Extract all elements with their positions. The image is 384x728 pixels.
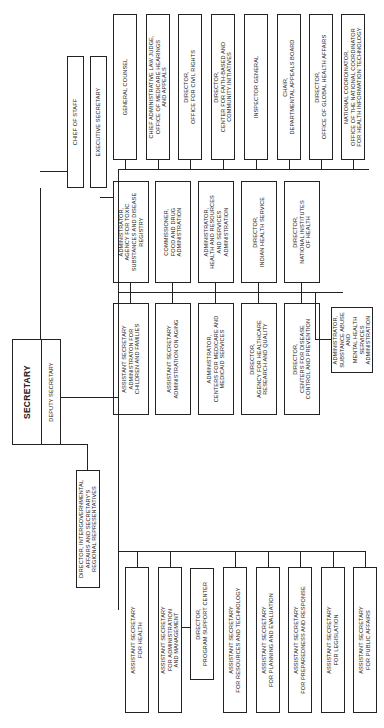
connector: [170, 552, 171, 567]
connector: [118, 169, 354, 170]
assistant-secretary-box: ASSISTANT SECRETARY FOR ADMINISTRATION A…: [158, 567, 182, 713]
connector: [235, 552, 236, 567]
operating-division-box-label: ASSISTANT SECRETARY ADMINISTRATION ON AG…: [166, 320, 179, 399]
connector: [118, 292, 343, 293]
operating-division-box-label: COMMISSIONER, FOOD AND DRUG ADMINISTRATI…: [163, 208, 183, 257]
assistant-secretary-box: ASSISTANT SECRETARY FOR RESOURCES AND TE…: [223, 567, 247, 713]
operating-division-box-label: ADMINISTRATOR, AGENCY FOR TOXIC SUBSTANC…: [118, 193, 145, 272]
executive-secretary-label: EXECUTIVE SECRETARY: [95, 88, 102, 157]
operating-division-box: ADMINISTRATOR, HEALTH AND RESOURCES AND …: [198, 181, 234, 283]
connector: [300, 552, 301, 567]
staff-office-box: INSPECTOR GENERAL: [244, 14, 268, 160]
connector: [60, 397, 118, 398]
connector: [268, 552, 269, 567]
staff-office-box: CHAIR, DEPARTMENTAL APPEALS BOARD: [277, 14, 301, 160]
operating-division-box-label: DIRECTOR, AGENCY FOR HEALTHCARE RESEARCH…: [249, 320, 269, 398]
connector: [40, 171, 67, 172]
connector: [181, 627, 190, 628]
samhsa-box-label: ADMINISTRATOR, SUBSTANCE ABUSE AND MENTA…: [332, 311, 372, 369]
operating-division-box-label: ADMINISTRATOR, HEALTH AND RESOURCES AND …: [203, 195, 230, 269]
staff-office-box-label: DIRECTOR, CENTER FOR FAITH-BASED AND COM…: [213, 42, 233, 132]
assistant-secretary-box-label: ASSISTANT SECRETARY FOR ADMINISTRATION A…: [160, 606, 180, 674]
operating-division-box: DIRECTOR, NATIONAL INSTITUTES OF HEALTH: [284, 181, 320, 283]
staff-office-box-label: DIRECTOR, OFFICE FOR CIVIL RIGHTS: [183, 50, 196, 124]
assistant-secretary-box-label: ASSISTANT SECRETARY FOR PLANNING AND EVA…: [261, 593, 274, 687]
program-support-center-box: DIRECTOR, PROGRAM SUPPORT CENTER: [190, 568, 214, 680]
staff-office-box: DIRECTOR, CENTER FOR FAITH-BASED AND COM…: [211, 14, 235, 160]
connector: [172, 293, 173, 303]
operating-division-box-label: DIRECTOR, NATIONAL INSTITUTES OF HEALTH: [292, 200, 312, 263]
chief-of-staff-box: CHIEF OF STAFF: [67, 56, 84, 188]
staff-office-box-label: GENERAL COUNSEL: [122, 59, 129, 116]
assistant-secretary-box: ASSISTANT SECRETARY FOR PREPAREDNESS AND…: [288, 567, 312, 713]
connector: [215, 293, 216, 303]
deputy-secretary-label: DEPUTY SECRETARY: [48, 362, 55, 421]
secretary-box: SECRETARY: [12, 339, 42, 445]
staff-office-box: DIRECTOR, OFFICE FOR CIVIL RIGHTS: [178, 14, 202, 160]
staff-office-box: NATIONAL COORDINATOR, OFFICE OF THE NATI…: [341, 14, 365, 160]
assistant-secretary-box-label: ASSISTANT SECRETARY FOR PUBLIC AFFAIRS: [358, 606, 371, 674]
connector: [137, 552, 138, 567]
connector: [40, 188, 41, 340]
staff-office-box: GENERAL COUNSEL: [113, 14, 137, 160]
connector: [315, 293, 316, 340]
connector: [315, 339, 331, 340]
connector: [301, 293, 302, 303]
org-chart: SECRETARY DEPUTY SECRETARY CHIEF OF STAF…: [0, 0, 384, 728]
connector: [365, 552, 366, 567]
operating-division-box-label: DIRECTOR, INDIAN HEALTH SERVICE: [252, 197, 265, 267]
operating-division-box: ASSISTANT SECRETARY ADMINISTRATION ON AG…: [155, 303, 191, 415]
chief-of-staff-label: CHIEF OF STAFF: [72, 99, 79, 145]
operating-division-box: ADMINISTRATOR, CENTERS FOR MEDICARE AND …: [198, 303, 234, 415]
assistant-secretary-box: ASSISTANT SECRETARY FOR HEALTH: [125, 567, 149, 713]
staff-office-box-label: CHAIR, DEPARTMENTAL APPEALS BOARD: [282, 39, 295, 134]
operating-division-box-label: ASSISTANT SECRETARY ADMINISTRATON FOR CH…: [121, 324, 141, 394]
operating-division-box: DIRECTOR, INDIAN HEALTH SERVICE: [241, 181, 277, 283]
connector: [118, 551, 366, 552]
assistant-secretary-box: ASSISTANT SECRETARY FOR PLANNING AND EVA…: [256, 567, 280, 713]
operating-division-box: DIRECTOR, AGENCY FOR HEALTHCARE RESEARCH…: [241, 303, 277, 415]
assistant-secretary-box-label: ASSISTANT SECRETARY FOR RESOURCES AND TE…: [228, 587, 241, 692]
executive-secretary-box: EXECUTIVE SECRETARY: [90, 56, 107, 188]
assistant-secretary-box: ASSISTANT SECRETARY FOR PUBLIC AFFAIRS: [353, 567, 377, 713]
deputy-secretary-box: DEPUTY SECRETARY: [41, 339, 61, 445]
assistant-secretary-box-label: ASSISTANT SECRETARY FOR LEGISLATION: [326, 606, 339, 674]
intergovernmental-label: DIRECTOR, INTERGOVERNMENTAL AFFAIRS AND …: [78, 480, 98, 578]
connector: [60, 444, 88, 445]
staff-office-box-label: INSPECTOR GENERAL: [253, 56, 260, 119]
connector: [118, 170, 119, 610]
operating-division-box-label: DIRECTOR, CENTERS FOR DISEASE CONTROL AN…: [292, 319, 312, 399]
staff-office-box-label: CHIEF ADMINISTRATIVE LAW JUDGE, OFFICE O…: [148, 35, 168, 138]
operating-division-box-label: ADMINISTRATOR, CENTERS FOR MEDICARE AND …: [206, 316, 226, 403]
connector: [130, 293, 131, 303]
intergovernmental-box: DIRECTOR, INTERGOVERNMENTAL AFFAIRS AND …: [76, 470, 100, 588]
connector: [333, 552, 334, 567]
assistant-secretary-box-label: ASSISTANT SECRETARY FOR PREPAREDNESS AND…: [293, 586, 306, 694]
operating-division-box: COMMISSIONER, FOOD AND DRUG ADMINISTRATI…: [155, 181, 191, 283]
staff-office-box: DIRECTOR, OFFICE OF GLOBAL HEALTH AFFAIR…: [309, 14, 333, 160]
connector: [87, 445, 88, 470]
samhsa-box: ADMINISTRATOR, SUBSTANCE ABUSE AND MENTA…: [331, 307, 373, 373]
staff-office-box-label: DIRECTOR, OFFICE OF GLOBAL HEALTH AFFAIR…: [314, 35, 327, 139]
assistant-secretary-box-label: ASSISTANT SECRETARY FOR HEALTH: [130, 606, 143, 674]
assistant-secretary-box: ASSISTANT SECRETARY FOR LEGISLATION: [321, 567, 345, 713]
staff-office-box: CHIEF ADMINISTRATIVE LAW JUDGE, OFFICE O…: [146, 14, 170, 160]
secretary-title: SECRETARY: [22, 365, 32, 419]
connector: [258, 293, 259, 303]
program-support-center-box-label: DIRECTOR, PROGRAM SUPPORT CENTER: [195, 582, 208, 666]
staff-office-box-label: NATIONAL COORDINATOR, OFFICE OF THE NATI…: [343, 27, 363, 146]
